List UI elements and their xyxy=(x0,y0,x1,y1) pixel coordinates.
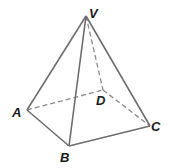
pyramid-diagram: V A B C D xyxy=(0,0,169,168)
vertex-label-c: C xyxy=(151,119,161,134)
edge-va xyxy=(27,16,86,110)
edges xyxy=(27,16,150,146)
edge-bc xyxy=(69,126,150,146)
vertex-label-v: V xyxy=(89,6,99,21)
edge-vb xyxy=(69,16,86,146)
edge-dc xyxy=(103,90,150,126)
edge-vc xyxy=(86,16,150,126)
vertex-label-a: A xyxy=(11,105,21,120)
vertex-label-d: D xyxy=(96,93,106,108)
edge-ab xyxy=(27,110,69,146)
edge-vd xyxy=(86,16,103,90)
vertex-label-b: B xyxy=(60,150,69,165)
